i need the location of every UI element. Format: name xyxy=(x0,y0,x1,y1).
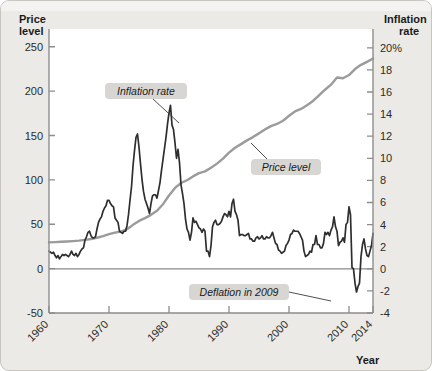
left-tick-label: -50 xyxy=(27,307,43,319)
x-tick-label: 2014 xyxy=(349,318,375,344)
right-tick-label: -4 xyxy=(380,307,390,319)
right-axis-title-line2: rate xyxy=(399,25,419,37)
chart-svg: 250200150100500-50 20%181614121086420-2-… xyxy=(1,1,432,371)
left-tick-label: 150 xyxy=(25,130,43,142)
x-axis-title: Year xyxy=(356,354,380,366)
right-tick-label: 10 xyxy=(380,152,392,164)
right-tick-label: 0 xyxy=(380,263,386,275)
right-tick-label: 6 xyxy=(380,196,386,208)
right-axis-title-line1: Inflation xyxy=(384,13,427,25)
left-tick-label: 50 xyxy=(31,218,43,230)
deflation-callout-text: Deflation in 2009 xyxy=(200,286,279,298)
x-tick-label: 2000 xyxy=(265,318,291,344)
chart-figure: 250200150100500-50 20%181614121086420-2-… xyxy=(1,1,432,371)
x-tick-label: 1980 xyxy=(145,318,171,344)
right-tick-label: 8 xyxy=(380,174,386,186)
inflation-rate-callout-text: Inflation rate xyxy=(117,85,175,97)
right-tick-label: 14 xyxy=(380,108,392,120)
x-tick-label: 2010 xyxy=(325,318,351,344)
chart-card: 250200150100500-50 20%181614121086420-2-… xyxy=(0,0,432,371)
right-tick-label: 2 xyxy=(380,241,386,253)
left-tick-label: 0 xyxy=(37,263,43,275)
left-tick-label: 100 xyxy=(25,174,43,186)
right-tick-label: 18 xyxy=(380,64,392,76)
right-tick-label: -2 xyxy=(380,285,390,297)
right-tick-label: 12 xyxy=(380,130,392,142)
price-level-callout-text: Price level xyxy=(262,161,311,173)
left-tick-label: 200 xyxy=(25,85,43,97)
right-tick-label: 20% xyxy=(380,42,402,54)
x-tick-label: 1960 xyxy=(25,318,51,344)
right-tick-label: 4 xyxy=(380,219,386,231)
left-tick-label: 250 xyxy=(25,41,43,53)
left-axis-title-line2: level xyxy=(19,25,43,37)
x-tick-label: 1990 xyxy=(205,318,231,344)
left-axis-title-line1: Price xyxy=(19,13,46,25)
x-tick-label: 1970 xyxy=(85,318,111,344)
right-tick-label: 16 xyxy=(380,86,392,98)
plot-background xyxy=(49,29,373,313)
